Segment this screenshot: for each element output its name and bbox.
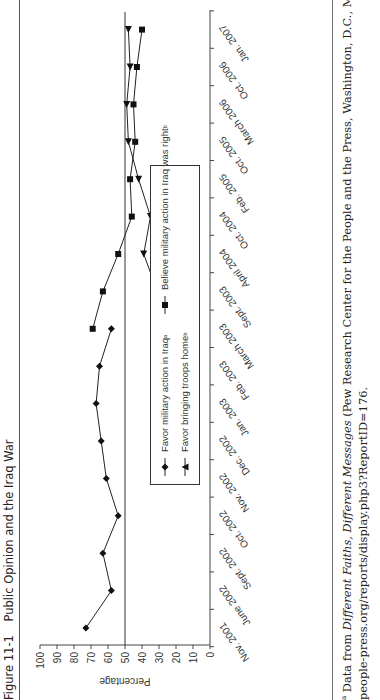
y-tick-label: 20 — [171, 652, 182, 664]
data-point — [115, 512, 122, 519]
x-tick-label: Oct. 2002 — [216, 508, 250, 550]
legend-footnote-mark: b — [162, 125, 168, 128]
data-point — [82, 625, 89, 632]
series-2 — [90, 27, 145, 332]
x-tick-label: Jan. 2003 — [216, 396, 250, 439]
y-tick-label: 40 — [137, 652, 148, 664]
source-title: Different Faiths, Different Messages — [340, 420, 354, 630]
legend-label: Favor bringing troops home — [179, 336, 190, 452]
x-tick-label: Oct. 2004 — [216, 209, 250, 251]
data-point — [99, 550, 106, 557]
data-point — [123, 101, 130, 108]
data-point — [135, 176, 142, 183]
x-tick-label: Feb. 2005 — [216, 172, 251, 216]
data-point — [132, 139, 138, 145]
y-tick-label: 80 — [69, 652, 80, 664]
data-point — [127, 64, 134, 71]
data-point — [108, 325, 115, 332]
y-tick-label: 10 — [188, 652, 199, 664]
y-tick-label: 70 — [86, 652, 97, 664]
series-line — [86, 329, 118, 628]
legend-item-favor-military-action: Favor military action in Iraqa — [159, 335, 170, 476]
data-point — [127, 176, 133, 182]
footnote-a-url: people-press.org/reports/display.php3?Re… — [355, 0, 371, 700]
data-point — [100, 288, 106, 294]
y-axis-title: Percentage — [99, 676, 151, 687]
figure-page: Figure 11-1 Public Opinion and the Iraq … — [0, 0, 380, 700]
triangle-marker-icon — [181, 458, 189, 476]
data-point — [90, 326, 96, 332]
data-point — [98, 438, 105, 445]
footnotes: a Data from Different Faiths, Different … — [336, 0, 377, 700]
data-point — [108, 587, 115, 594]
data-point — [125, 138, 132, 145]
data-point — [129, 214, 135, 220]
footnote-rule — [332, 0, 333, 700]
y-tick-label: 30 — [154, 652, 165, 664]
footnote-marker: a — [340, 696, 348, 700]
data-point — [93, 400, 100, 407]
data-point — [139, 27, 145, 33]
data-point — [140, 251, 147, 258]
data-point — [134, 64, 140, 70]
chart-legend: Favor military action in Iraqa Favor bri… — [150, 165, 200, 485]
footnote-a: a Data from Different Faiths, Different … — [336, 0, 355, 700]
y-tick-label: 0 — [205, 652, 216, 658]
data-point — [125, 26, 132, 33]
x-tick-label: Sept. 2003 — [216, 284, 253, 330]
x-tick-label: Dec. 2002 — [216, 434, 251, 478]
legend-item-favor-troops-home: Favor bringing troops homeb — [179, 332, 190, 476]
x-tick-label: Sept. 2002 — [216, 546, 253, 592]
series-0 — [82, 325, 121, 631]
legend-footnote-mark: a — [162, 335, 168, 338]
data-point — [103, 475, 110, 482]
y-tick-label: 60 — [103, 652, 114, 664]
x-tick-label: April 2004 — [216, 246, 251, 290]
x-tick-label: Nov. 2002 — [216, 471, 251, 514]
x-tick-label: Oct. 2006 — [216, 59, 250, 101]
y-tick-label: 90 — [52, 652, 63, 664]
series-line — [93, 30, 142, 329]
x-tick-label: Jan. 2007 — [216, 22, 250, 65]
footnote-b-cutoff — [371, 0, 377, 700]
legend-label: Believe military action in Iraq was righ… — [159, 128, 170, 290]
square-marker-icon — [161, 296, 169, 314]
data-point — [115, 251, 121, 257]
chart-axes: 0102030405060708090100PercentageNov. 200… — [35, 10, 256, 687]
y-tick-label: 50 — [120, 652, 131, 664]
legend-item-believe-right: Believe military action in Iraq was righ… — [159, 125, 170, 314]
data-point — [131, 101, 137, 107]
legend-label: Favor military action in Iraq — [159, 338, 170, 452]
legend-footnote-mark: b — [182, 332, 188, 335]
data-point — [96, 363, 103, 370]
y-tick-label: 100 — [35, 652, 46, 669]
diamond-marker-icon — [161, 458, 169, 476]
